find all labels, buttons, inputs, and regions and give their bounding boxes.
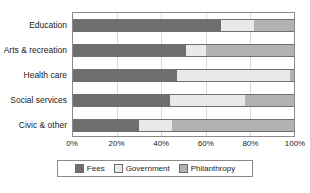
bar-segment-government <box>221 20 254 31</box>
stacked-bar <box>73 19 294 32</box>
legend-swatch-government <box>114 164 123 173</box>
bar-segment-philanthropy <box>172 120 294 131</box>
bar-row <box>73 38 294 63</box>
bar-segment-government <box>170 95 245 106</box>
stacked-bar <box>73 69 294 82</box>
legend-label: Philanthropy <box>191 164 235 173</box>
x-tick-label: 60% <box>198 139 214 148</box>
stacked-bar <box>73 94 294 107</box>
category-label: Social services <box>0 95 67 105</box>
bar-segment-philanthropy <box>206 45 294 56</box>
legend-item-fees[interactable]: Fees <box>75 164 105 173</box>
bar-row <box>73 63 294 88</box>
bar-segment-government <box>177 70 290 81</box>
bar-segment-philanthropy <box>290 70 294 81</box>
x-tick-label: 80% <box>242 139 258 148</box>
bar-segment-fees <box>73 95 170 106</box>
x-axis: 0%20%40%60%80%100% <box>72 139 295 153</box>
bar-row <box>73 13 294 38</box>
x-tick-label: 0% <box>66 139 78 148</box>
x-tick-label: 20% <box>109 139 125 148</box>
bar-segment-fees <box>73 45 186 56</box>
x-tick-label: 100% <box>285 139 305 148</box>
category-label: Arts & recreation <box>0 45 67 55</box>
legend-item-government[interactable]: Government <box>114 164 170 173</box>
bar-segment-philanthropy <box>245 95 294 106</box>
stacked-bar <box>73 119 294 132</box>
category-label: Education <box>0 20 67 30</box>
legend-swatch-philanthropy <box>179 164 188 173</box>
x-tick-label: 40% <box>153 139 169 148</box>
legend-label: Government <box>126 164 170 173</box>
plot-area <box>72 12 295 137</box>
bar-segment-fees <box>73 70 177 81</box>
bar-segment-government <box>139 120 172 131</box>
stacked-bar <box>73 44 294 57</box>
bar-segment-fees <box>73 120 139 131</box>
chart-legend: FeesGovernmentPhilanthropy <box>57 160 253 177</box>
bar-segment-government <box>186 45 206 56</box>
bar-row <box>73 113 294 138</box>
legend-swatch-fees <box>75 164 84 173</box>
bar-row <box>73 88 294 113</box>
bar-segment-philanthropy <box>254 20 294 31</box>
category-label: Civic & other <box>0 120 67 130</box>
legend-label: Fees <box>87 164 105 173</box>
category-label: Health care <box>0 70 67 80</box>
legend-item-philanthropy[interactable]: Philanthropy <box>179 164 235 173</box>
chart-figure: EducationArts & recreationHealth careSoc… <box>0 0 310 193</box>
bar-segment-fees <box>73 20 221 31</box>
